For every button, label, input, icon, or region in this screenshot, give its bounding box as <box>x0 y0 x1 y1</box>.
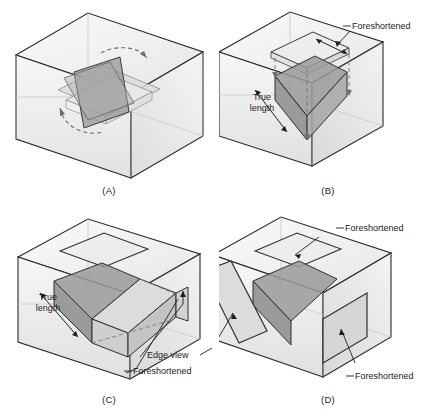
label-foreshortened-b-top: Foreshortened <box>352 21 411 32</box>
caption-panel-a: (A) <box>89 185 129 196</box>
label-edge-view-c: Edge view <box>147 350 189 361</box>
label-foreshortened-d-top: Foreshortened <box>345 223 404 234</box>
caption-panel-b: (B) <box>308 185 348 196</box>
panel-d <box>219 209 438 418</box>
label-true-length-b: True length <box>241 92 283 113</box>
panel-a <box>0 0 219 209</box>
label-foreshortened-c: Foreshortened <box>133 366 192 377</box>
edge-view-plane-c <box>176 287 188 321</box>
figure-root: (A) <box>0 0 438 418</box>
label-foreshortened-d-right: Foreshortened <box>355 371 414 382</box>
label-true-length-c: True length <box>27 292 69 313</box>
panel-c <box>0 209 219 418</box>
caption-panel-c: (C) <box>89 394 129 405</box>
caption-panel-d: (D) <box>308 394 348 405</box>
